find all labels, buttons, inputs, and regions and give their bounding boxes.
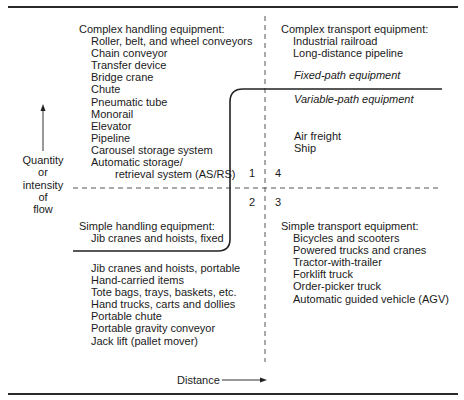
y-axis-label-line: Quantity (18, 154, 68, 166)
list-item: Industrial railroad (281, 35, 428, 47)
list-item: Roller, belt, and wheel conveyors (79, 35, 252, 47)
list-item: Powered trucks and cranes (281, 244, 449, 256)
y-axis-label-line: or (18, 166, 68, 178)
fixed-path-label: Fixed-path equipment (294, 69, 400, 81)
list-item: Automatic guided vehicle (AGV) (281, 293, 449, 305)
list-item: Tractor-with-trailer (281, 256, 449, 268)
list-item: Elevator (79, 120, 252, 132)
x-axis-arrowhead-icon (260, 378, 267, 383)
simple-handling-variable-items: Jib cranes and hoists, portable Hand-car… (79, 262, 240, 347)
list-item: Transfer device (79, 59, 252, 71)
list-item: Carousel storage system (79, 144, 252, 156)
list-item: Portable chute (79, 310, 240, 322)
list-item: Chain conveyor (79, 47, 252, 59)
quadrant-number-1: 1 (249, 167, 255, 179)
x-axis-label: Distance (177, 374, 220, 386)
y-axis-label: Quantity or intensity of flow (18, 154, 68, 215)
list-item: Bridge crane (79, 71, 252, 83)
complex-handling-block: Complex handling equipment: Roller, belt… (79, 23, 252, 180)
y-axis-label-line: intensity (18, 179, 68, 191)
quadrant-number-2: 2 (249, 196, 255, 208)
list-item: Portable gravity conveyor (79, 322, 240, 334)
list-item: Hand-carried items (79, 274, 240, 286)
complex-transport-header: Complex transport equipment: (281, 23, 428, 35)
list-item: Chute (79, 83, 252, 95)
quadrant-number-4: 4 (275, 167, 281, 179)
list-item: Hand trucks, carts and dollies (79, 298, 240, 310)
list-item: Tote bags, trays, baskets, etc. (79, 286, 240, 298)
list-item: Long-distance pipeline (281, 47, 428, 59)
simple-handling-header: Simple handling equipment: (79, 220, 224, 232)
y-axis-label-line: of (18, 191, 68, 203)
quadrant-number-3: 3 (275, 196, 281, 208)
list-item: Bicycles and scooters (281, 232, 449, 244)
simple-handling-block: Simple handling equipment: Jib cranes an… (79, 220, 224, 244)
list-item: Pneumatic tube (79, 96, 252, 108)
y-axis-label-line: flow (18, 203, 68, 215)
simple-transport-header: Simple transport equipment: (281, 220, 449, 232)
list-item: Air freight (282, 130, 341, 142)
list-item: Order-picker truck (281, 280, 449, 292)
list-item: Pipeline (79, 132, 252, 144)
list-item: Monorail (79, 108, 252, 120)
list-item: Jack lift (pallet mover) (79, 335, 240, 347)
list-item: Ship (282, 142, 341, 154)
list-item: retrieval system (AS/RS) (79, 168, 252, 180)
list-item: Forklift truck (281, 268, 449, 280)
y-axis-arrowhead-icon (41, 104, 46, 111)
list-item: Jib cranes and hoists, fixed (79, 232, 224, 244)
list-item: Automatic storage/ (79, 156, 252, 168)
variable-path-items: Air freight Ship (282, 130, 341, 154)
variable-path-label: Variable-path equipment (294, 93, 413, 105)
list-item: Jib cranes and hoists, portable (79, 262, 240, 274)
complex-transport-block: Complex transport equipment: Industrial … (281, 23, 428, 59)
simple-transport-block: Simple transport equipment: Bicycles and… (281, 220, 449, 305)
complex-handling-header: Complex handling equipment: (79, 23, 252, 35)
